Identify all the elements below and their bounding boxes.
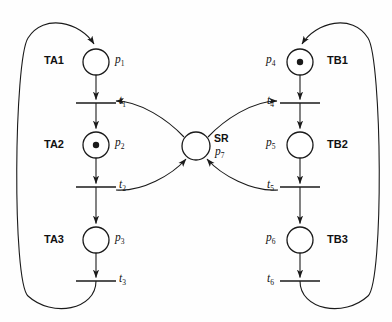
arc-t2-p7 (116, 159, 186, 190)
place-label-p1: p1 (115, 54, 125, 68)
group-label-ta2: TA2 (44, 139, 64, 150)
group-label-tb3: TB3 (327, 234, 348, 245)
arc-p7-t1 (116, 101, 184, 137)
place-label-p3: p3 (115, 232, 125, 246)
transition-label-t5: t5 (267, 179, 274, 193)
place-label-p7: p7 (215, 146, 225, 160)
group-label-sr: SR (214, 133, 229, 144)
token-p4 (297, 59, 303, 65)
transition-label-t3: t3 (119, 273, 126, 287)
token-p2 (93, 142, 99, 148)
transition-label-t1: t1 (119, 95, 126, 109)
place-label-p5: p5 (266, 137, 276, 151)
place-label-p2: p2 (115, 137, 125, 151)
transition-label-t4: t4 (267, 95, 274, 109)
group-label-ta1: TA1 (44, 55, 64, 66)
group-label-tb2: TB2 (327, 139, 348, 150)
transition-label-t6: t6 (267, 273, 274, 287)
group-label-tb1: TB1 (327, 55, 348, 66)
transition-label-t2: t2 (119, 179, 126, 193)
group-label-ta3: TA3 (44, 234, 64, 245)
place-p5[interactable] (287, 132, 313, 158)
place-p7-shared-resource[interactable] (182, 132, 210, 160)
place-label-p4: p4 (266, 54, 276, 68)
place-p4[interactable] (287, 49, 313, 75)
petri-net-canvas (0, 0, 392, 322)
place-label-p6: p6 (266, 232, 276, 246)
place-p1[interactable] (83, 49, 109, 75)
place-p3[interactable] (83, 227, 109, 253)
place-p6[interactable] (287, 227, 313, 253)
place-p2[interactable] (83, 132, 109, 158)
petri-net-diagram: TA1 TA2 TA3 TB1 TB2 TB3 SR p1 p2 p3 p4 p… (0, 0, 392, 322)
